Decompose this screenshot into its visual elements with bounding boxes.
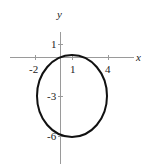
- x-tick-label-neg2: -2: [29, 63, 38, 75]
- y-tick-label-1: 1: [51, 38, 57, 50]
- x-tick-label-1: 1: [70, 63, 76, 75]
- x-axis-label: x: [135, 51, 141, 63]
- y-tick-label-neg3: -3: [47, 90, 57, 102]
- y-axis-label: y: [56, 8, 62, 20]
- y-tick-label-neg6: -6: [47, 130, 57, 142]
- ellipse-graph: y x -2 1 4 1 -3 -6: [0, 0, 147, 167]
- x-tick-label-4: 4: [105, 63, 111, 75]
